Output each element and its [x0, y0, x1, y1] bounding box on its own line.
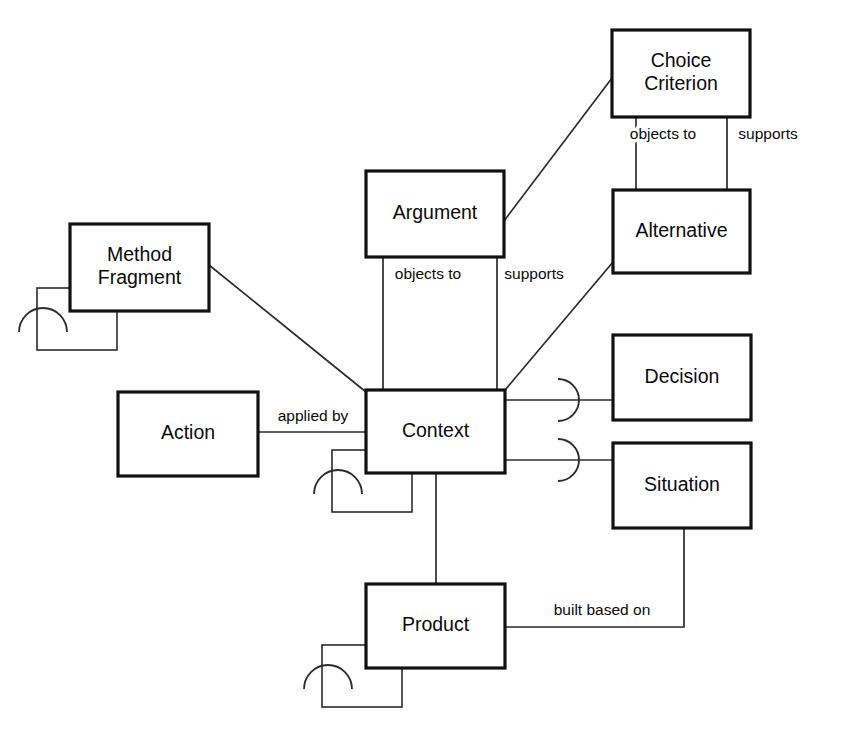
- self-loop-arc-method_fragment: [19, 308, 67, 332]
- entity-label-situation: Situation: [644, 473, 720, 495]
- self-loop-arc-context: [314, 470, 362, 494]
- entity-label-product: Product: [402, 613, 470, 635]
- entity-method_fragment[interactable]: MethodFragment: [70, 224, 209, 311]
- cardinality-arc-layer: [558, 379, 579, 481]
- relationship-label-cc-objects-to-alt: objects to: [630, 125, 696, 142]
- relationship-label-argument-objects-to-context: objects to: [395, 265, 461, 282]
- entity-context[interactable]: Context: [366, 390, 505, 473]
- entity-situation[interactable]: Situation: [613, 443, 751, 528]
- relationship-label-action-applied-by-context: applied by: [278, 407, 349, 424]
- relationship-line-method-fragment-context: [209, 265, 366, 392]
- diagram-canvas-root: ChoiceCriterionArgumentAlternativeMethod…: [0, 0, 850, 743]
- entity-choice_criterion[interactable]: ChoiceCriterion: [612, 30, 750, 117]
- entity-label-decision: Decision: [645, 365, 720, 387]
- entity-decision[interactable]: Decision: [613, 335, 751, 420]
- entity-argument[interactable]: Argument: [366, 171, 504, 257]
- entity-label-method_fragment: Method: [107, 243, 172, 265]
- entity-label-choice_criterion: Criterion: [644, 72, 718, 94]
- entity-label-alternative: Alternative: [635, 219, 727, 241]
- relationship-label-argument-supports-context: supports: [504, 265, 564, 282]
- entity-label-argument: Argument: [393, 201, 478, 223]
- relationship-line-argument-cc: [504, 78, 612, 221]
- self-loop-arc-product: [304, 665, 352, 689]
- relationship-label-cc-supports-alt: supports: [738, 125, 798, 142]
- entity-label-action: Action: [161, 421, 215, 443]
- entity-product[interactable]: Product: [366, 584, 505, 668]
- entity-label-choice_criterion: Choice: [651, 49, 712, 71]
- entity-action[interactable]: Action: [118, 392, 258, 476]
- relationship-label-product-built-based-on-situation: built based on: [554, 601, 651, 618]
- entity-alternative[interactable]: Alternative: [613, 190, 750, 273]
- entity-label-method_fragment: Fragment: [98, 266, 182, 288]
- self-loop-layer: [19, 288, 412, 707]
- context-model-diagram: ChoiceCriterionArgumentAlternativeMethod…: [0, 0, 850, 743]
- entity-label-context: Context: [402, 419, 470, 441]
